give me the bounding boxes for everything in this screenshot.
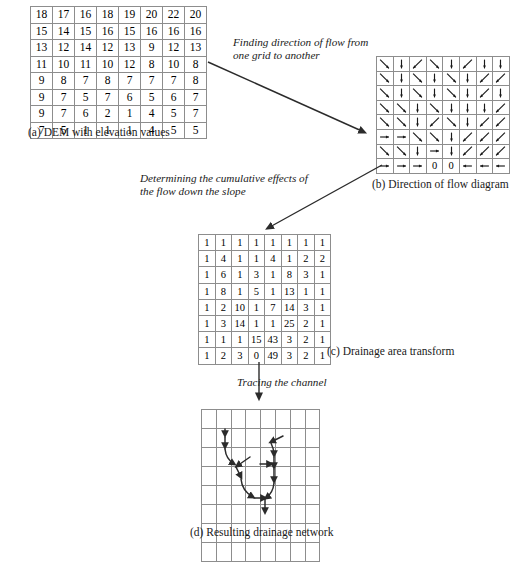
flow-arrow-s-icon	[410, 115, 427, 130]
panel-drainage-network	[201, 409, 517, 562]
drainage-area-row: 14114122	[199, 251, 331, 267]
flow-arrow-s-icon	[426, 71, 443, 86]
network-grid-cell	[246, 410, 261, 429]
dem-cell: 6	[75, 106, 97, 123]
network-grid-cell	[231, 448, 246, 467]
network-grid-cell	[216, 429, 231, 448]
drainage-area-cell: 1	[314, 299, 331, 315]
dem-cell: 19	[119, 7, 141, 24]
network-grid-cell	[275, 486, 290, 505]
drainage-area-cell: 1	[199, 267, 216, 283]
dem-cell: 14	[53, 23, 75, 40]
flow-arrow-sw-icon	[493, 115, 510, 130]
dem-cell: 8	[185, 56, 207, 73]
flow-arrow-sw-icon	[493, 144, 510, 159]
drainage-area-cell: 49	[265, 348, 282, 364]
dem-cell: 9	[141, 40, 163, 57]
drainage-area-cell: 1	[248, 251, 265, 267]
flow-arrow-s-icon	[393, 86, 410, 101]
flow-direction-row	[377, 71, 510, 86]
network-grid-cell	[216, 467, 231, 486]
drainage-area-cell: 0	[248, 348, 265, 364]
dem-cell: 9	[31, 73, 53, 90]
drainage-area-cell: 4	[215, 251, 232, 267]
drainage-area-cell: 1	[199, 348, 216, 364]
network-grid-cell	[290, 543, 305, 562]
drainage-area-cell: 1	[199, 332, 216, 348]
dem-cell: 18	[31, 7, 53, 24]
dem-row: 1817161819202220	[31, 7, 207, 24]
flow-direction-row	[377, 100, 510, 115]
network-grid-cell	[246, 467, 261, 486]
network-grid-cell	[216, 448, 231, 467]
dem-cell: 12	[97, 40, 119, 57]
drainage-area-cell: 3	[298, 267, 315, 283]
dem-cell: 8	[141, 56, 163, 73]
drainage-area-row: 16131831	[199, 267, 331, 283]
drainage-area-cell: 1	[265, 235, 282, 251]
drainage-area-cell: 1	[232, 235, 249, 251]
flow-arrow-sw-icon	[493, 129, 510, 144]
drainage-area-cell: 1	[199, 283, 216, 299]
drainage-area-cell: 3	[298, 299, 315, 315]
drainage-area-cell: 1	[199, 316, 216, 332]
dem-cell: 11	[75, 56, 97, 73]
dem-cell: 7	[185, 89, 207, 106]
drainage-area-cell: 1	[232, 251, 249, 267]
dem-cell: 16	[163, 23, 185, 40]
dem-cell: 9	[31, 89, 53, 106]
network-grid-cell	[261, 543, 276, 562]
drainage-area-cell: 1	[265, 283, 282, 299]
network-grid-cell	[305, 410, 320, 429]
drainage-area-cell: 6	[215, 267, 232, 283]
drainage-area-cell: 3	[232, 348, 249, 364]
dem-cell: 15	[31, 23, 53, 40]
dem-cell: 20	[185, 7, 207, 24]
drainage-network-grid	[201, 409, 320, 562]
dem-row: 11101110128108	[31, 56, 207, 73]
drainage-area-cell: 3	[281, 332, 298, 348]
flow-direction-grid: 00	[376, 56, 510, 174]
network-grid-row	[202, 410, 320, 429]
flow-arrow-s-icon	[476, 100, 493, 115]
caption-panel-c: (c) Drainage area transform	[327, 345, 454, 357]
drainage-area-cell: 1	[215, 332, 232, 348]
drainage-area-cell: 7	[265, 299, 282, 315]
network-grid-cell	[290, 448, 305, 467]
flow-arrow-s-icon	[443, 129, 460, 144]
caption-panel-b: (b) Direction of flow diagram	[372, 178, 509, 190]
flow-arrow-w-icon	[493, 159, 510, 174]
dem-cell: 22	[163, 7, 185, 24]
network-grid-cell	[202, 429, 217, 448]
panel-flow-direction: 00	[376, 56, 510, 174]
flow-arrow-s-icon	[476, 57, 493, 72]
flow-direction-row	[377, 144, 510, 159]
drainage-area-cell: 15	[248, 332, 265, 348]
flow-arrow-e-icon	[393, 129, 410, 144]
flow-arrow-sw-icon	[410, 57, 427, 72]
network-grid-cell	[275, 448, 290, 467]
connector-a-to-b	[208, 62, 364, 132]
dem-cell: 12	[53, 40, 75, 57]
network-grid-cell	[246, 448, 261, 467]
drainage-area-cell: 1	[232, 267, 249, 283]
dem-cell: 7	[75, 73, 97, 90]
network-grid-row	[202, 448, 320, 467]
network-grid-cell	[275, 429, 290, 448]
flow-arrow-se-icon	[377, 144, 394, 159]
network-grid-cell	[290, 486, 305, 505]
flow-arrow-se-icon	[426, 57, 443, 72]
flow-arrow-se-icon	[426, 129, 443, 144]
dem-cell: 13	[119, 40, 141, 57]
drainage-area-row: 1314112521	[199, 316, 331, 332]
network-grid-cell	[275, 467, 290, 486]
network-grid-cell	[216, 543, 231, 562]
flow-arrow-se-icon	[393, 115, 410, 130]
drainage-area-row: 1210171431	[199, 299, 331, 315]
drainage-area-cell: 3	[281, 348, 298, 364]
flow-arrow-sw-icon	[493, 100, 510, 115]
flow-arrow-s-icon	[426, 86, 443, 101]
flow-arrow-s-icon	[493, 57, 510, 72]
dem-cell: 4	[141, 106, 163, 123]
